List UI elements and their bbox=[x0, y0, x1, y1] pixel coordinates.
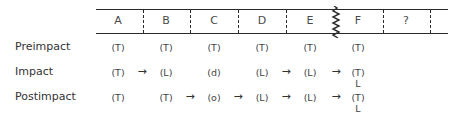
impact-a: (T) bbox=[111, 67, 124, 78]
preimpact-b: (T) bbox=[159, 42, 172, 53]
column-header-e: E bbox=[290, 14, 330, 27]
impact-b: (L) bbox=[160, 67, 173, 78]
impact-f: (T) L bbox=[351, 67, 364, 89]
row-label-preimpact: Preimpact bbox=[15, 40, 70, 53]
arrow-right-icon: → bbox=[281, 90, 290, 103]
column-header-c: C bbox=[194, 14, 234, 27]
column-header-f: F bbox=[338, 14, 378, 27]
table-top-line bbox=[96, 9, 448, 10]
arrow-right-icon: → bbox=[331, 65, 340, 78]
arrow-right-icon: → bbox=[185, 90, 194, 103]
column-header-b: B bbox=[146, 14, 186, 27]
divider-c-d bbox=[238, 10, 239, 33]
arrow-right-icon: → bbox=[281, 65, 290, 78]
divider-d-e bbox=[286, 10, 287, 33]
postimpact-f: (T) L bbox=[351, 92, 364, 114]
column-header-d: D bbox=[242, 14, 282, 27]
postimpact-e: (L) bbox=[304, 92, 317, 103]
column-header-unknown: ? bbox=[386, 14, 426, 27]
row-label-impact: Impact bbox=[15, 65, 53, 78]
divider-q-end bbox=[430, 10, 431, 33]
row-label-postimpact: Postimpact bbox=[15, 90, 76, 103]
postimpact-c: (o) bbox=[207, 92, 220, 103]
divider-b-c bbox=[190, 10, 191, 33]
preimpact-d: (T) bbox=[255, 42, 268, 53]
postimpact-f-top: (T) bbox=[351, 92, 364, 103]
impact-f-sub: L bbox=[351, 78, 364, 89]
impact-d: (L) bbox=[256, 67, 269, 78]
postimpact-f-sub: L bbox=[351, 103, 364, 114]
preimpact-c: (T) bbox=[207, 42, 220, 53]
arrow-right-icon: → bbox=[137, 65, 146, 78]
preimpact-e: (T) bbox=[303, 42, 316, 53]
table-bottom-line bbox=[96, 33, 448, 34]
impact-diagram: A B C D E F ? Preimpact (T) (T) (T) (T) … bbox=[0, 0, 464, 114]
arrow-right-icon: → bbox=[331, 90, 340, 103]
postimpact-b: (T) bbox=[159, 92, 172, 103]
preimpact-a: (T) bbox=[111, 42, 124, 53]
preimpact-f: (T) bbox=[351, 42, 364, 53]
impact-e: (L) bbox=[304, 67, 317, 78]
postimpact-a: (T) bbox=[111, 92, 124, 103]
impact-c: (d) bbox=[207, 67, 220, 78]
arrow-right-icon: → bbox=[233, 90, 242, 103]
column-header-a: A bbox=[98, 14, 138, 27]
postimpact-d: (L) bbox=[256, 92, 269, 103]
impact-f-top: (T) bbox=[351, 67, 364, 78]
divider-f-q bbox=[383, 10, 384, 33]
divider-a-b bbox=[143, 10, 144, 33]
